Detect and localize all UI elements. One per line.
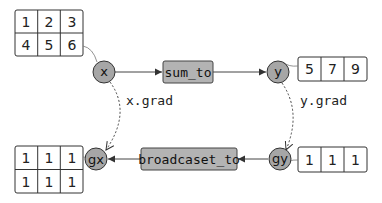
node-x-label: x xyxy=(100,64,108,79)
node-x: x xyxy=(93,61,115,83)
y-grad-label: y.grad xyxy=(300,93,347,108)
gy-values-table: 1 1 1 xyxy=(298,147,367,172)
x-values-table: 1 2 3 4 5 6 xyxy=(15,10,83,56)
node-gy: gy xyxy=(269,148,291,170)
x-grad-link xyxy=(106,82,120,150)
x-table-connector xyxy=(83,46,97,62)
gx-cell: 1 xyxy=(22,150,31,166)
x-cell: 1 xyxy=(22,14,31,30)
gx-cell: 1 xyxy=(22,174,31,190)
x-cell: 2 xyxy=(45,14,54,30)
y-cell: 9 xyxy=(351,61,360,77)
sum-to-label: sum_to xyxy=(165,65,212,80)
y-values-table: 5 7 9 xyxy=(298,57,367,81)
node-y-label: y xyxy=(274,64,282,79)
broadcast-to-function: broadcaset_to xyxy=(138,148,240,170)
node-gx-label: gx xyxy=(88,152,104,167)
x-cell: 5 xyxy=(45,37,54,53)
y-cell: 7 xyxy=(328,61,337,77)
gx-cell: 1 xyxy=(68,174,77,190)
x-cell: 3 xyxy=(68,14,77,30)
computational-graph: 1 2 3 4 5 6 5 7 9 1 1 1 1 1 1 1 1 1 xyxy=(0,0,382,203)
y-cell: 5 xyxy=(305,61,314,77)
node-gx: gx xyxy=(85,148,107,170)
gy-cell: 1 xyxy=(328,152,337,168)
gx-cell: 1 xyxy=(45,174,54,190)
node-y: y xyxy=(267,61,289,83)
x-cell: 4 xyxy=(22,37,31,53)
x-grad-label: x.grad xyxy=(126,93,173,108)
gx-cell: 1 xyxy=(68,150,77,166)
sum-to-function: sum_to xyxy=(163,61,213,83)
gy-cell: 1 xyxy=(351,152,360,168)
gy-cell: 1 xyxy=(305,152,314,168)
gx-cell: 1 xyxy=(45,150,54,166)
broadcast-to-label: broadcaset_to xyxy=(138,152,240,167)
node-gy-label: gy xyxy=(272,151,288,166)
y-grad-link xyxy=(282,83,293,150)
x-cell: 6 xyxy=(68,37,77,53)
gx-values-table: 1 1 1 1 1 1 xyxy=(15,146,83,193)
